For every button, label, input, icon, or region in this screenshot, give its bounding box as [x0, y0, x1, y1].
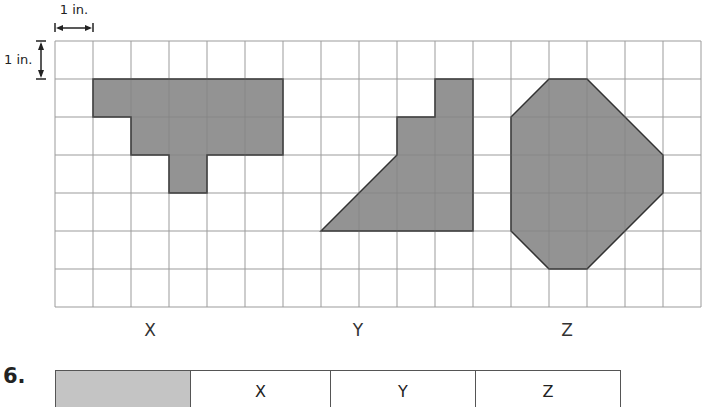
table-header-z: Z: [475, 371, 621, 407]
shapes-layer: [55, 41, 701, 307]
table-header-x: X: [190, 371, 330, 407]
shape-label-x: X: [130, 320, 170, 340]
shape-label-y: Y: [338, 320, 378, 340]
vertical-scale-arrow-icon: [36, 41, 46, 79]
shape-x: [93, 79, 283, 193]
question-number: 6.: [3, 364, 26, 388]
shape-label-z: Z: [547, 320, 587, 340]
horizontal-scale-arrow-icon: [55, 23, 93, 32]
table-header-y: Y: [330, 371, 475, 407]
table-header-blank-cell: [55, 371, 190, 407]
answer-table: X Y Z: [55, 370, 621, 407]
